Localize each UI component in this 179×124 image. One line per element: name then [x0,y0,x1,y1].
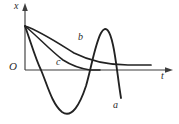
curve-label-b: b [78,32,83,42]
curve-label-a: a [113,100,118,110]
damping-curves-figure: x t O a b c [0,0,179,124]
horizontal-axis-arrowhead [165,67,173,72]
axis-label-t: t [161,71,164,81]
figure-canvas [0,0,179,124]
origin-label: O [9,61,17,72]
curve-label-c: c [56,57,60,67]
vertical-axis-arrowhead [22,3,28,11]
curve-c-critically-damped [25,26,100,70]
axis-label-x: x [14,1,18,11]
curve-b-overdamped [25,26,151,65]
